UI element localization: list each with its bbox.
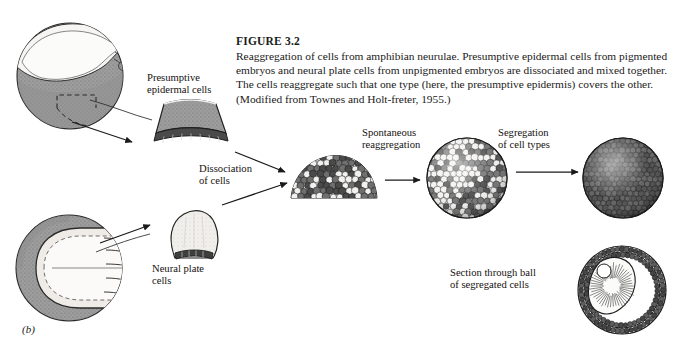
arrow-embryo-to-epidermis-explant: [72, 122, 132, 142]
unpigmented-embryo-neurula: [16, 215, 150, 321]
neural-plate-dashed-outline: [44, 236, 124, 300]
label-neural-plate-cells: Neural plate cells: [152, 263, 232, 288]
label-segregation-of-cell-types: Segregation of cell types: [498, 127, 574, 152]
figure-caption-block: FIGURE 3.2 Reaggregation of cells from a…: [236, 34, 668, 106]
panel-letter: (b): [22, 323, 35, 335]
label-dissociation-of-cells: Dissociation of cells: [199, 163, 269, 188]
arrow-embryo-to-neural-explant: [100, 225, 150, 243]
segregated-sphere-dark: [577, 132, 667, 221]
figure-caption-text: Reaggregation of cells from amphibian ne…: [236, 49, 668, 106]
pigmented-embryo-neurula: [16, 23, 152, 129]
label-section-through-ball: Section through ball of segregated cells: [450, 267, 576, 292]
excision-outline: [57, 95, 96, 108]
figure-panel: FIGURE 3.2 Reaggregation of cells from a…: [0, 0, 674, 347]
neural-plate-explant: [171, 211, 218, 259]
figure-number: FIGURE 3.2: [236, 34, 668, 48]
dissociated-cell-mound: [284, 148, 382, 201]
presumptive-epidermis-explant: [154, 100, 228, 144]
segregated-sphere-section: [578, 246, 666, 334]
label-spontaneous-reaggregation: Spontaneous reaggregation: [362, 127, 440, 152]
label-presumptive-epidermal-cells: Presumptive epidermal cells: [147, 72, 231, 97]
